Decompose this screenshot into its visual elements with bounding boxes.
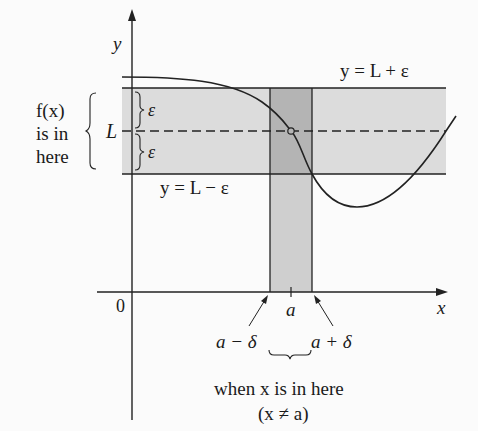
fx-brace-layer: [0, 0, 478, 431]
fx-brace-icon: [86, 93, 96, 169]
